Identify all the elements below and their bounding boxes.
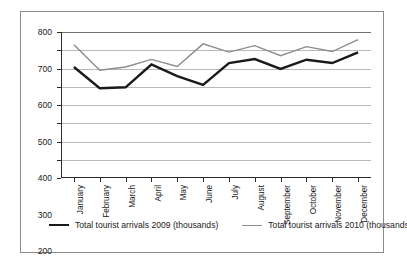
x-axis-tick (100, 178, 101, 182)
series-line-2009 (74, 52, 358, 88)
x-axis-tick (281, 178, 282, 182)
y-axis-tick-label: 500 (38, 137, 52, 146)
series-line-2010 (74, 40, 358, 70)
x-axis-tick (126, 178, 127, 182)
plot-area: 0100200300400500600700800 JanuaryFebruar… (61, 32, 371, 178)
legend-item-label: Total tourist arrivals 2010 (thousands) (268, 221, 407, 230)
y-axis-tick-label: 300 (38, 210, 52, 219)
x-axis-tick-label: January (77, 185, 85, 214)
x-axis-tick-label: May (180, 185, 188, 200)
x-axis-tick-label: March (129, 185, 137, 208)
x-axis-tick (203, 178, 204, 182)
x-axis-tick-label: June (206, 185, 214, 203)
x-axis-tick-label: December (361, 185, 369, 223)
legend-item-label: Total tourist arrivals 2009 (thousands) (75, 221, 218, 230)
x-axis-tick (74, 178, 75, 182)
x-axis-tick-label: April (155, 185, 163, 201)
legend-item-2009[interactable]: Total tourist arrivals 2009 (thousands) (49, 221, 218, 230)
x-axis-tick-label: October (310, 185, 318, 214)
x-axis-tick (306, 178, 307, 182)
x-axis-tick-label: August (258, 185, 266, 211)
x-axis-tick (151, 178, 152, 182)
x-axis-tick (255, 178, 256, 182)
x-axis-tick (332, 178, 333, 182)
x-axis-tick (229, 178, 230, 182)
x-axis-tick (358, 178, 359, 182)
y-axis-tick: 0 (57, 178, 61, 179)
line-swatch-gray (242, 225, 262, 226)
legend-item-2010[interactable]: Total tourist arrivals 2010 (thousands) (242, 221, 407, 230)
x-axis-tick-label: November (335, 185, 343, 223)
x-axis-tick (177, 178, 178, 182)
x-axis-tick-label: July (232, 185, 240, 200)
y-axis-tick-label: 800 (38, 28, 52, 37)
y-axis-tick-label: 200 (38, 247, 52, 256)
y-axis-tick-label: 400 (38, 174, 52, 183)
chart-figure-frame: 0100200300400500600700800 JanuaryFebruar… (20, 11, 384, 253)
series-plot (61, 32, 371, 178)
line-swatch-black (49, 224, 69, 226)
chart-legend: Total tourist arrivals 2009 (thousands)T… (49, 221, 407, 230)
y-axis-tick-label: 600 (38, 101, 52, 110)
x-axis-tick-label: February (103, 185, 111, 218)
y-axis-tick-label: 700 (38, 64, 52, 73)
